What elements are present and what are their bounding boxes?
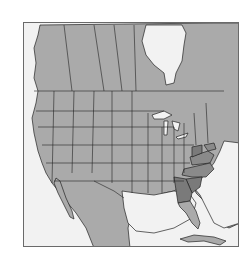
north-america-map [24,23,239,247]
map-frame [23,22,239,247]
cuba [180,235,226,245]
lake-michigan [164,121,168,135]
